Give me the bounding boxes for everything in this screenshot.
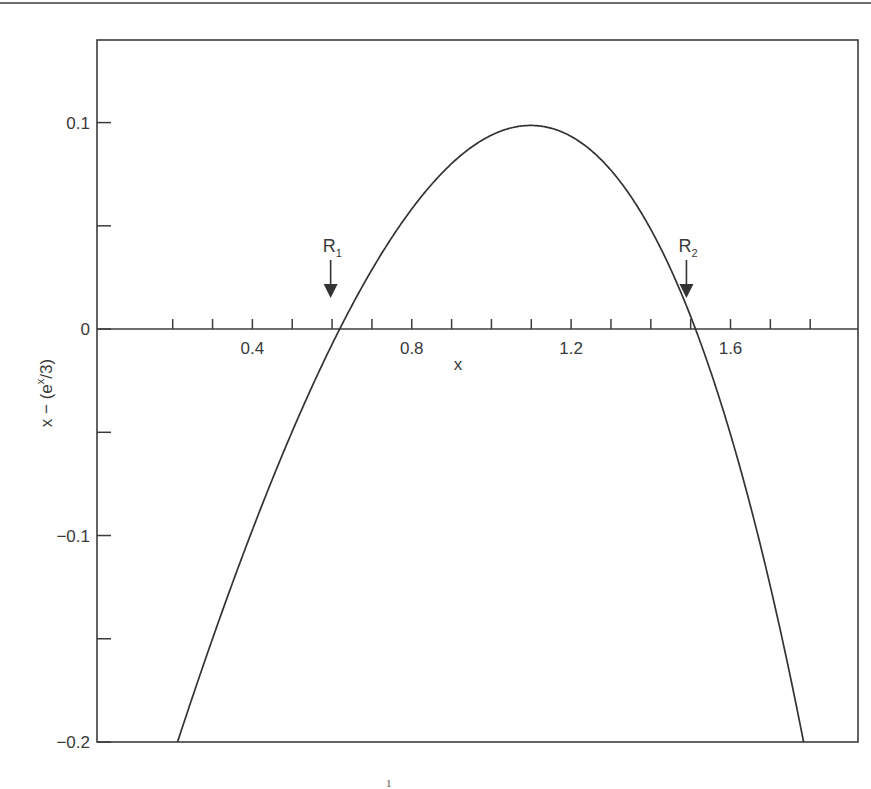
y-axis-title-post: /3) [37,359,56,379]
series-line-x-minus-exp-x-over-3 [178,125,804,742]
plot-frame [97,40,858,742]
series-group [178,125,804,742]
y-tick-label: −0.1 [56,527,90,546]
x-tick-label: 0.8 [400,339,424,358]
x-axis-title: x [454,355,463,374]
chart: 0.40.81.21.6 0.10−0.1−0.2 R1R2 x x − (ex… [0,0,871,789]
root-label-subscript: 1 [336,247,342,259]
root-annotation-1: R1 [323,236,342,298]
annotations: R1R2 [323,236,698,298]
root-label-subscript: 2 [691,247,697,259]
y-tick-label: 0.1 [66,114,90,133]
arrow-down-icon [324,284,338,298]
y-axis-title: x − (ex/3) [34,359,56,427]
footnote: 1 [386,777,392,789]
x-tick-label: 1.2 [559,339,583,358]
plot-border [97,40,858,742]
x-tick-label: 0.4 [241,339,265,358]
y-axis: 0.10−0.1−0.2 [56,114,111,752]
y-tick-label: −0.2 [56,733,90,752]
root-label: R2 [678,236,697,259]
root-annotation-2: R2 [678,236,697,298]
y-axis-title-pre: x − (e [37,384,56,427]
x-axis: 0.40.81.21.6 [97,319,858,358]
x-tick-label: 1.6 [719,339,743,358]
y-tick-label: 0 [81,320,90,339]
root-label: R1 [323,236,342,259]
